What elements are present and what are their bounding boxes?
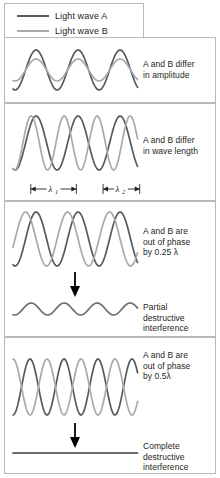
legend-swatch-wave-a — [17, 15, 49, 17]
legend-item-wave-a: Light wave A — [17, 8, 143, 23]
wave-plot-phase-quarter — [5, 204, 145, 274]
caption-phase-quarter: A and B are out of phase by 0.25 λ — [143, 226, 190, 258]
wave-plot-wavelength — [5, 106, 145, 180]
measure-lambda-2: λ 2 — [103, 182, 140, 196]
legend-label-wave-b: Light wave B — [55, 26, 108, 36]
panel-amplitude: A and B differ in amplitude — [4, 37, 216, 103]
caption-amplitude: A and B differ in amplitude — [143, 59, 195, 80]
legend-swatch-wave-b — [17, 30, 49, 32]
wave-plot-partial-result — [5, 296, 145, 322]
legend-label-wave-a: Light wave A — [55, 11, 107, 21]
caption-complete-result: Complete destructive interference — [143, 441, 189, 473]
caption-phase-half: A and B are out of phase by 0.5λ — [143, 350, 190, 382]
svg-text:λ: λ — [114, 184, 119, 194]
panel-wavelength: λ 1 λ 2 A and B differ in wave length — [4, 103, 216, 201]
svg-text:λ: λ — [48, 184, 53, 194]
wavelength-measures: λ 1 λ 2 — [5, 180, 215, 200]
wave-interference-figure: Light wave A Light wave B A and B differ… — [0, 0, 220, 478]
panel-phase-quarter: A and B are out of phase by 0.25 λ Parti… — [4, 201, 216, 337]
svg-text:1: 1 — [55, 188, 58, 195]
measure-lambda-1: λ 1 — [31, 182, 77, 196]
legend: Light wave A Light wave B — [4, 3, 144, 37]
panel-phase-half: A and B are out of phase by 0.5λ Complet… — [4, 337, 216, 474]
wave-plot-amplitude — [5, 38, 145, 102]
wave-plot-phase-half — [5, 351, 145, 423]
caption-partial-result: Partial destructive interference — [143, 302, 189, 334]
wave-plot-complete-result — [5, 446, 145, 460]
legend-item-wave-b: Light wave B — [17, 23, 143, 38]
caption-wavelength: A and B differ in wave length — [143, 135, 198, 156]
